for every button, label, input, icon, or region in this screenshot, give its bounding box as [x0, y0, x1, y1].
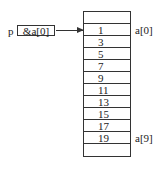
array-cell [84, 12, 130, 24]
array-cell: 11 [84, 84, 130, 96]
array-memory: 1 3 5 7 9 11 13 15 17 19 [83, 11, 131, 157]
array-cell: 13 [84, 96, 130, 108]
array-cell: 3 [84, 36, 130, 48]
array-cell: 17 [84, 120, 130, 132]
array-cell: 1 [84, 24, 130, 36]
array-cell: 15 [84, 108, 130, 120]
pointer-name: p [8, 25, 14, 37]
array-cell: 19 [84, 132, 130, 144]
pointer-box: &a[0] [17, 25, 55, 36]
array-cell: 9 [84, 72, 130, 84]
label-a9: a[9] [135, 132, 153, 144]
label-a0: a[0] [135, 24, 153, 36]
array-cell: 7 [84, 60, 130, 72]
array-cell [84, 144, 130, 156]
array-cell: 5 [84, 48, 130, 60]
